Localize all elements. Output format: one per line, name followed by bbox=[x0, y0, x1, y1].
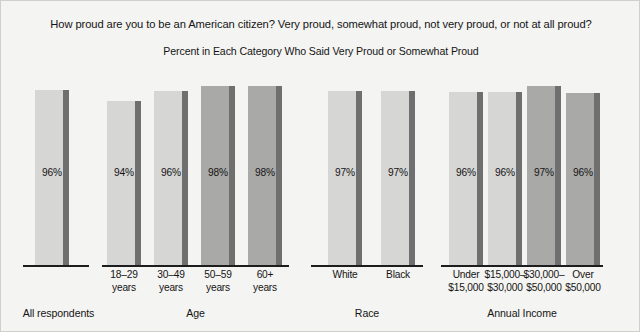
axis-baseline bbox=[23, 265, 89, 267]
bar-body bbox=[107, 101, 135, 265]
bar-body bbox=[154, 91, 182, 265]
bar-value-label: 98% bbox=[201, 167, 235, 178]
bar bbox=[154, 91, 188, 265]
bar-edge-stripe bbox=[135, 101, 141, 265]
group-label: Age bbox=[102, 307, 289, 319]
bar-edge-stripe bbox=[516, 92, 522, 265]
bar-body bbox=[328, 91, 356, 265]
bar-value-label: 96% bbox=[449, 167, 483, 178]
bar-body bbox=[566, 93, 594, 265]
bar-value-label: 98% bbox=[248, 167, 282, 178]
bar-value-label: 94% bbox=[107, 167, 141, 178]
bar-edge-stripe bbox=[182, 91, 188, 265]
axis-tick-label: 30–49years bbox=[146, 269, 196, 294]
bar-value-label: 97% bbox=[381, 167, 415, 178]
bar-value-label: 96% bbox=[35, 167, 69, 178]
bar bbox=[566, 93, 600, 265]
axis-tick-label: Over$50,000 bbox=[558, 269, 608, 294]
axis-tick-label: Black bbox=[373, 269, 423, 282]
bar bbox=[107, 101, 141, 265]
bar-body bbox=[488, 92, 516, 265]
bar bbox=[328, 91, 362, 265]
axis-baseline bbox=[311, 265, 423, 267]
bar-value-label: 96% bbox=[488, 167, 522, 178]
chart-figure: How proud are you to be an American citi… bbox=[0, 0, 640, 332]
bar-edge-stripe bbox=[356, 91, 362, 265]
chart-plot-area: 96%All respondents94%18–29years96%30–49y… bbox=[1, 1, 640, 332]
axis-baseline bbox=[102, 265, 289, 267]
bar-body bbox=[449, 92, 477, 265]
bar-edge-stripe bbox=[477, 92, 483, 265]
axis-tick-label: 50–59years bbox=[193, 269, 243, 294]
bar bbox=[488, 92, 522, 265]
axis-tick-label: White bbox=[320, 269, 370, 282]
axis-baseline bbox=[441, 265, 603, 267]
group-label: All respondents bbox=[1, 307, 116, 319]
group-label: Annual Income bbox=[441, 307, 603, 319]
bar-value-label: 97% bbox=[328, 167, 362, 178]
bar-value-label: 97% bbox=[527, 167, 561, 178]
bar bbox=[381, 91, 415, 265]
bar-edge-stripe bbox=[594, 93, 600, 265]
bar bbox=[449, 92, 483, 265]
bar-value-label: 96% bbox=[566, 167, 600, 178]
bar-body bbox=[381, 91, 409, 265]
axis-tick-label: 18–29years bbox=[99, 269, 149, 294]
group-label: Race bbox=[311, 307, 423, 319]
bar-value-label: 96% bbox=[154, 167, 188, 178]
bar-edge-stripe bbox=[409, 91, 415, 265]
axis-tick-label: 60+years bbox=[240, 269, 290, 294]
